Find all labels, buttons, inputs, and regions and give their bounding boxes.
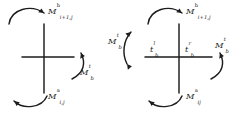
left-right-label-sub: b bbox=[90, 75, 93, 81]
left-top-label-sup: b bbox=[57, 2, 60, 8]
right-center-right-label-sup: r bbox=[189, 40, 192, 46]
right-left-outer-label-sub: b bbox=[118, 44, 121, 50]
figure-canvas: Mbi+1,j Mtb Mai,j Mbi+1,j Mtb Mtb tlb tr… bbox=[0, 0, 243, 116]
right-diagram-group bbox=[124, 8, 224, 106]
right-bottom-arc bbox=[149, 96, 182, 107]
right-bottom-label-sub: ij bbox=[198, 99, 201, 105]
right-right-outer-label: Mtb bbox=[215, 41, 229, 49]
right-top-label-sub: i+1,j bbox=[198, 14, 211, 20]
left-diagram-group bbox=[9, 8, 85, 106]
right-top-arc bbox=[148, 9, 182, 24]
right-left-arrowhead-bottom bbox=[127, 64, 132, 70]
right-right-outer-label-sup: t bbox=[224, 36, 226, 42]
right-center-left-label-sub: b bbox=[155, 52, 158, 58]
left-right-label: Mtb bbox=[80, 68, 94, 76]
right-left-arc bbox=[124, 32, 131, 64]
right-center-left-label: tlb bbox=[150, 45, 159, 53]
right-center-right-label: trb bbox=[185, 45, 194, 53]
right-bottom-label-base: M bbox=[186, 91, 194, 101]
left-top-arc bbox=[9, 9, 44, 24]
right-right-outer-label-sub: b bbox=[225, 48, 228, 54]
right-top-label-base: M bbox=[186, 6, 194, 16]
left-right-label-base: M bbox=[80, 67, 88, 77]
right-left-outer-label-base: M bbox=[108, 36, 116, 46]
right-center-right-label-sub: b bbox=[191, 52, 194, 58]
right-center-right-label-base: t bbox=[185, 44, 188, 54]
right-top-label-sup: b bbox=[195, 2, 198, 8]
right-right-outer-label-base: M bbox=[215, 40, 223, 50]
left-bottom-arc bbox=[14, 96, 47, 107]
left-bottom-label-base: M bbox=[48, 91, 56, 101]
right-left-outer-label-sup: t bbox=[117, 32, 119, 38]
right-bottom-label: Maij bbox=[186, 92, 201, 100]
right-left-outer-label: Mtb bbox=[108, 37, 122, 45]
right-top-label: Mbi+1,j bbox=[186, 7, 211, 15]
right-bottom-label-sup: a bbox=[195, 87, 198, 93]
left-top-label: Mbi+1,j bbox=[48, 7, 73, 15]
left-bottom-label: Mai,j bbox=[48, 92, 65, 100]
left-top-label-sub: i+1,j bbox=[60, 14, 73, 20]
left-right-label-sup: t bbox=[89, 63, 91, 69]
right-center-left-label-base: t bbox=[150, 44, 153, 54]
left-bottom-label-sub: i,j bbox=[60, 99, 65, 105]
left-top-label-base: M bbox=[48, 6, 56, 16]
left-bottom-label-sup: a bbox=[57, 87, 60, 93]
